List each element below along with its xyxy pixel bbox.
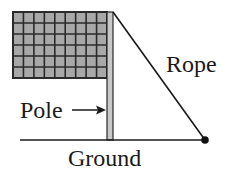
ground-label: Ground [68,146,141,170]
pole [107,12,113,140]
flagpole-diagram: Rope Pole Ground [0,0,235,180]
rope-anchor-dot [201,136,209,144]
pole-arrow-icon [72,106,106,115]
pole-label: Pole [20,98,63,122]
rope-label: Rope [166,52,217,76]
flag [13,12,107,78]
